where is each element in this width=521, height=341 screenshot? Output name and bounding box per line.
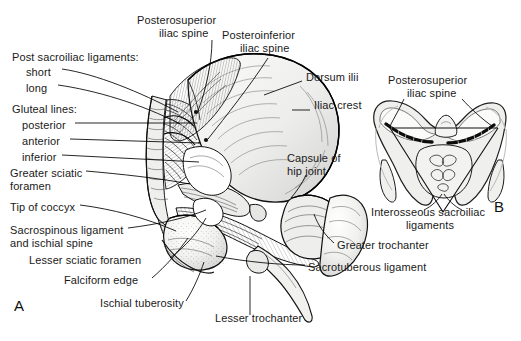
label-short: short	[26, 66, 51, 79]
panel-b-artwork	[374, 99, 507, 212]
label-greater-sciatic-foramen-line-2: foramen	[10, 180, 51, 193]
label-posterosuperior-iliac-spine-line-1: Posterosuperior	[137, 14, 216, 27]
label-posterior: posterior	[22, 119, 66, 132]
label-inferior: inferior	[22, 151, 56, 164]
label-lesser-trochanter: Lesser trochanter	[215, 312, 302, 325]
label-posterosuperior-iliac-spine-line-2: iliac spine	[159, 27, 208, 40]
label-ischial-tuberosity: Ischial tuberosity	[100, 297, 184, 310]
label-iliac-crest: Iliac crest	[314, 99, 362, 112]
label-capsule-of-hip-joint-line-1: Capsule of	[287, 152, 341, 165]
panel-a-letter: A	[14, 297, 24, 314]
label-sacrospinous-ligament-line-2: and ischial spine	[10, 237, 93, 250]
label-b-posterosuperior-iliac-spine-line-1: Posterosuperior	[388, 74, 467, 87]
label-greater-trochanter: Greater trochanter	[337, 239, 429, 252]
label-capsule-of-hip-joint-line-2: hip joint	[287, 165, 326, 178]
anatomy-figure: Post sacroiliac ligaments: short long Gl…	[0, 0, 521, 341]
label-sacrotuberous-ligament: Sacrotuberous ligament	[308, 261, 426, 274]
label-sacrospinous-ligament-line-1: Sacrospinous ligament	[10, 224, 123, 237]
label-b-interosseous-sacroiliac-ligaments-line-1: Interosseous sacroiliac	[371, 206, 485, 219]
label-lesser-sciatic-foramen: Lesser sciatic foramen	[29, 254, 141, 267]
label-greater-sciatic-foramen-line-1: Greater sciatic	[10, 167, 82, 180]
label-tip-of-coccyx: Tip of coccyx	[10, 201, 75, 214]
label-gluteal-lines: Gluteal lines:	[12, 103, 77, 116]
label-b-interosseous-sacroiliac-ligaments-line-2: ligaments	[406, 219, 454, 232]
label-posteroinferior-iliac-spine-line-2: iliac spine	[240, 42, 289, 55]
panel-b-letter: B	[494, 198, 504, 215]
label-posteroinferior-iliac-spine-line-1: Posteroinferior	[222, 29, 295, 42]
label-long: long	[26, 82, 47, 95]
label-dorsum-ilii: Dorsum ilii	[306, 71, 358, 84]
label-post-sacroiliac-ligaments: Post sacroiliac ligaments:	[12, 51, 139, 64]
label-falciform-edge: Falciform edge	[64, 274, 138, 287]
label-b-posterosuperior-iliac-spine-line-2: iliac spine	[407, 87, 456, 100]
label-anterior: anterior	[22, 135, 60, 148]
